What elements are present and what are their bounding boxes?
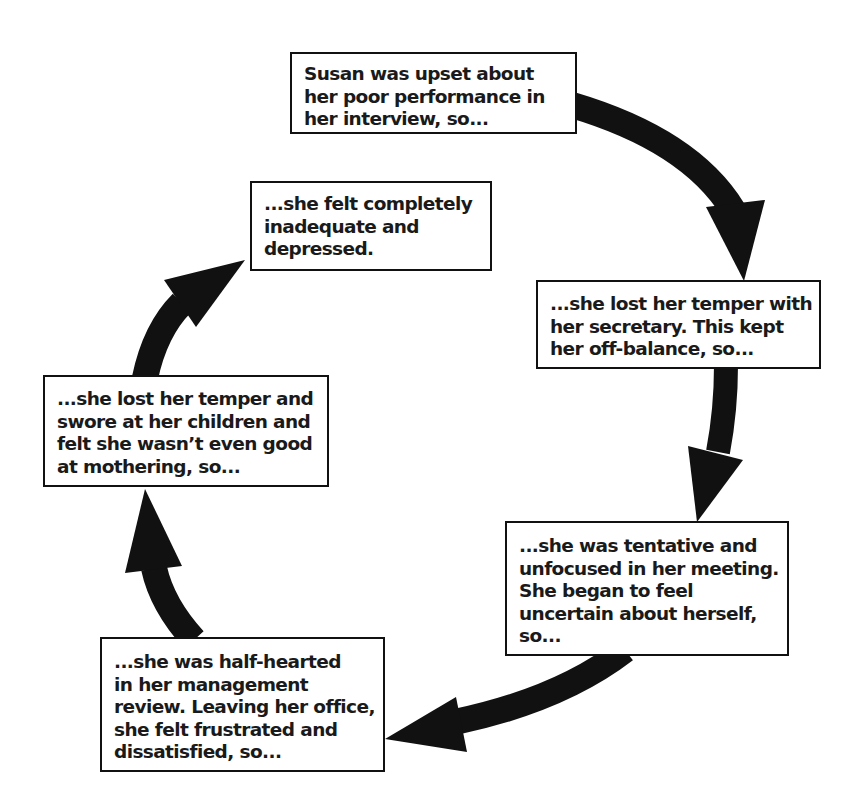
step-4-line-1: ...she was half-hearted [114,651,373,674]
arrow-step5-to-step6 [145,260,245,378]
step-3-line-1: ...she was tentative and [519,535,777,558]
step-3-line-4: uncertain about herself, [519,603,777,626]
step-4-line-3: review. Leaving her office, [114,696,373,719]
step-5-line-4: at mothering, so... [57,456,317,479]
arrow-step1-to-step2 [572,105,765,281]
step-6-line-2: inadequate and [264,216,480,239]
step-3-box: ...she was tentative and unfocused in he… [505,521,789,656]
step-1-line-3: her interview, so... [304,108,565,131]
step-2-box: ...she lost her temper with her secretar… [536,280,821,369]
step-5-box: ...she lost her temper and swore at her … [43,375,329,487]
step-4-line-4: she felt frustrated and [114,719,373,742]
step-5-line-1: ...she lost her temper and [57,388,317,411]
step-4-line-5: dissatisfied, so... [114,741,373,764]
step-4-line-2: in her management [114,674,373,697]
step-2-line-2: her secretary. This kept [550,316,809,339]
step-2-line-1: ...she lost her temper with [550,293,809,316]
step-1-line-2: her poor performance in [304,86,565,109]
step-1-box: Susan was upset about her poor performan… [290,52,577,134]
step-2-line-3: her off-balance, so... [550,338,809,361]
step-6-line-1: ...she felt completely [264,193,480,216]
step-6-line-3: depressed. [264,238,480,261]
step-3-line-3: She began to feel [519,580,777,603]
arrow-step4-to-step5 [125,489,194,640]
arrow-step2-to-step3 [688,365,743,522]
step-1-line-1: Susan was upset about [304,63,565,86]
step-3-line-2: unfocused in her meeting. [519,558,777,581]
step-5-line-2: swore at her children and [57,411,317,434]
arrow-step3-to-step4 [385,650,625,752]
step-5-line-3: felt she wasn’t even good [57,433,317,456]
step-3-line-5: so... [519,625,777,648]
step-6-box: ...she felt completely inadequate and de… [250,181,492,271]
step-4-box: ...she was half-hearted in her managemen… [100,637,385,772]
